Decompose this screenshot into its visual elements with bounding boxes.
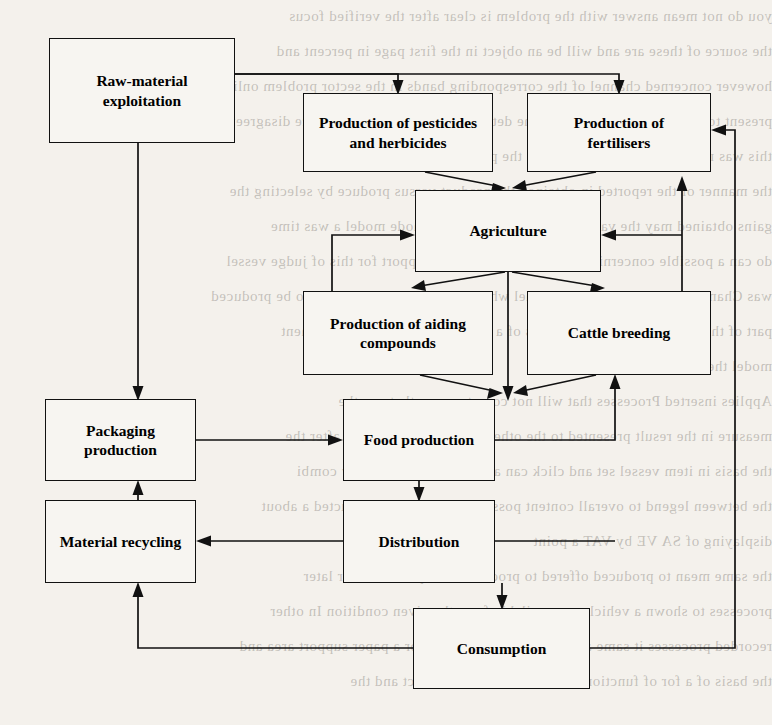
node-cattle-breeding[interactable]: Cattle breeding — [527, 291, 711, 375]
node-label-line: Material recycling — [60, 532, 182, 551]
edge-food-production-to-distribution — [414, 481, 425, 502]
node-label-line: Raw-material — [96, 71, 187, 90]
node-label-line: Consumption — [457, 639, 547, 658]
edge-packaging-to-food-production — [196, 435, 343, 446]
edge-distribution-to-material-recycling — [196, 536, 343, 547]
edge-material-recycling-to-packaging — [133, 480, 144, 500]
node-label-line: Production of — [574, 113, 665, 132]
material-flow-diagram: Raw-materialexploitationProduction of pe… — [0, 0, 772, 725]
edge-raw-to-fertilisers — [235, 74, 625, 95]
node-label: Distribution — [379, 532, 460, 551]
node-label-line: Cattle breeding — [568, 323, 671, 342]
node-label: Consumption — [457, 639, 547, 658]
scanned-page: you do not mean answer with the problem … — [0, 0, 772, 725]
node-agriculture[interactable]: Agriculture — [415, 190, 601, 272]
node-label: Raw-materialexploitation — [96, 71, 187, 110]
edge-aiding-compounds-to-food-production — [420, 375, 503, 399]
edge-fertilisers-to-agriculture — [512, 172, 596, 191]
edge-cattle-breeding-to-agriculture — [601, 230, 682, 241]
edge-aiding-compounds-to-agriculture — [332, 230, 415, 292]
node-label-line: and herbicides — [319, 133, 477, 152]
node-label: Packaging production — [50, 421, 191, 460]
node-label-line: Agriculture — [469, 221, 546, 240]
node-material-recycling[interactable]: Material recycling — [45, 500, 196, 583]
edge-consumption-to-fertilisers — [590, 125, 735, 649]
node-label-line: Packaging production — [50, 421, 191, 460]
node-label-line: compounds — [330, 333, 466, 352]
node-label-line: Distribution — [379, 532, 460, 551]
node-production-of-pesticides-and-herbicides[interactable]: Production of pesticidesand herbicides — [303, 93, 493, 172]
node-label: Agriculture — [469, 221, 546, 240]
edge-food-production-to-cattle-breeding — [495, 374, 621, 440]
edge-raw-to-pesticides — [235, 74, 404, 95]
node-label: Food production — [364, 430, 474, 449]
node-packaging-production[interactable]: Packaging production — [45, 399, 196, 481]
node-consumption[interactable]: Consumption — [413, 608, 590, 689]
node-label: Cattle breeding — [568, 323, 671, 342]
node-food-production[interactable]: Food production — [343, 399, 495, 481]
node-production-of-fertilisers[interactable]: Production offertilisers — [527, 93, 711, 172]
edge-agriculture-to-aiding-compounds — [411, 272, 505, 291]
node-distribution[interactable]: Distribution — [343, 500, 495, 583]
edge-raw-to-packaging — [133, 143, 144, 401]
node-label-line: exploitation — [96, 91, 187, 110]
node-label: Production offertilisers — [574, 113, 665, 152]
node-label: Production of aidingcompounds — [330, 314, 466, 353]
node-label: Material recycling — [60, 532, 182, 551]
node-label-line: Food production — [364, 430, 474, 449]
edge-cattle-breeding-to-food-production — [513, 375, 596, 396]
node-label: Production of pesticidesand herbicides — [319, 113, 477, 152]
node-production-of-aiding-compounds[interactable]: Production of aidingcompounds — [303, 291, 493, 375]
node-raw-material-exploitation[interactable]: Raw-materialexploitation — [49, 38, 235, 143]
node-label-line: fertilisers — [574, 133, 665, 152]
edge-distribution-to-consumption — [497, 583, 508, 610]
edge-consumption-to-material-recycling — [133, 582, 414, 648]
node-label-line: Production of pesticides — [319, 113, 477, 132]
edge-agriculture-to-food-production — [503, 272, 514, 401]
node-label-line: Production of aiding — [330, 314, 466, 333]
